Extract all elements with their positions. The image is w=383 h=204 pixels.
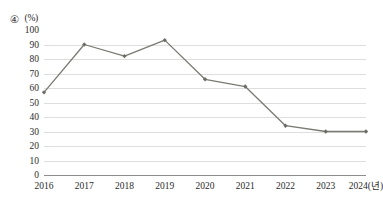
data-point-marker: [364, 129, 368, 133]
x-axis-tick-label: 2019: [155, 181, 174, 192]
y-axis-tick-label: 90: [30, 40, 40, 50]
item-number-label: ④: [10, 13, 19, 26]
x-axis-tick-label: 2020: [196, 181, 215, 192]
x-axis-tick-label: 2018: [115, 181, 134, 192]
x-axis-tick-label: 2024(년): [349, 181, 383, 192]
line-series: [44, 30, 366, 175]
y-axis-tick-label: 10: [30, 156, 40, 166]
x-axis-tick-label: 2017: [75, 181, 94, 192]
data-point-marker: [324, 129, 328, 133]
y-axis-tick-label: 50: [30, 98, 40, 108]
y-axis-tick-label: 100: [25, 25, 39, 35]
y-axis-tick-label: 70: [30, 69, 40, 79]
y-axis-tick-label: 20: [30, 141, 40, 151]
y-axis-tick-label: 60: [30, 83, 40, 93]
series-line: [44, 40, 366, 131]
unit-label: (%): [24, 13, 38, 24]
x-axis-tick-label: 2021: [236, 181, 255, 192]
data-point-marker: [122, 54, 126, 58]
x-axis-tick-label: 2023: [316, 181, 335, 192]
x-axis-tick-label: 2016: [35, 181, 54, 192]
y-axis-tick-label: 40: [30, 112, 40, 122]
plot-area: 1009080706050403020100 20162017201820192…: [44, 30, 366, 175]
axis-baseline: [44, 175, 366, 176]
x-axis-tick-label: 2022: [276, 181, 295, 192]
y-axis-tick-label: 80: [30, 54, 40, 64]
y-axis-tick-label: 0: [34, 170, 39, 180]
y-axis-tick-label: 30: [30, 127, 40, 137]
